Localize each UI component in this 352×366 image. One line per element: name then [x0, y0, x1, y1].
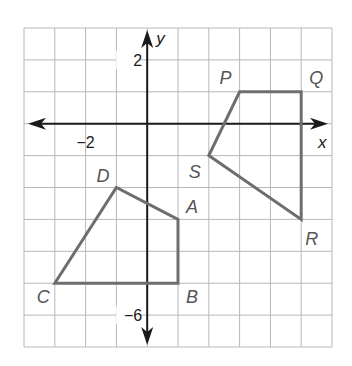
vertex-label-q: Q	[309, 68, 323, 88]
vertex-label-d: D	[96, 166, 109, 186]
vertex-label-s: S	[189, 162, 201, 182]
tick-label-x: −2	[76, 134, 94, 151]
grid-lines	[24, 28, 332, 347]
vertex-label-b: B	[186, 287, 198, 307]
vertex-label-c: C	[37, 287, 51, 307]
coordinate-plane: x y −22−6 ABCDPQRS	[0, 0, 352, 366]
tick-label-y: 2	[133, 52, 142, 69]
vertex-label-r: R	[305, 229, 318, 249]
vertex-label-p: P	[220, 68, 232, 88]
coordinate-grid-svg: x y −22−6 ABCDPQRS	[0, 0, 352, 366]
tick-label-y: −6	[124, 307, 142, 324]
x-axis-label: x	[317, 133, 327, 152]
vertex-label-a: A	[185, 197, 198, 217]
y-axis-label: y	[155, 29, 166, 48]
